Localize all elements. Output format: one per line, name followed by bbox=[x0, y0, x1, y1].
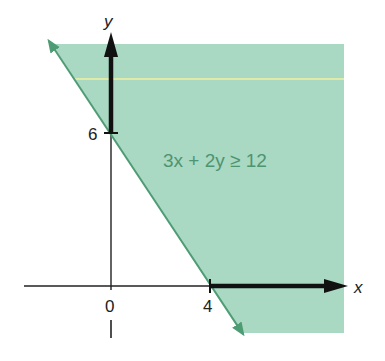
y-tick-label-6: 6 bbox=[88, 125, 97, 144]
y-axis-label: y bbox=[103, 12, 114, 31]
x-tick-label-4: 4 bbox=[203, 297, 212, 316]
solution-region bbox=[52, 44, 344, 333]
origin-label: 0 bbox=[105, 297, 114, 316]
inequality-label: 3x + 2y ≥ 12 bbox=[163, 150, 267, 171]
graph-canvas: y x 6 4 0 3x + 2y ≥ 12 bbox=[0, 0, 385, 361]
x-axis-label: x bbox=[353, 278, 363, 297]
